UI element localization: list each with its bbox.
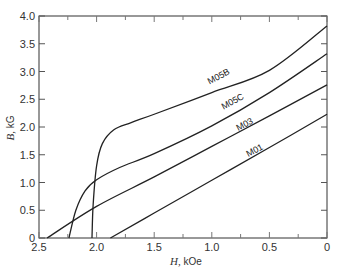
plot-frame xyxy=(39,16,327,238)
y-tick-label: 2.0 xyxy=(20,121,35,133)
y-tick-label: 0.5 xyxy=(20,204,35,216)
y-tick-label: 2.5 xyxy=(20,93,35,105)
y-tick-label: 1.0 xyxy=(20,177,35,189)
y-axis-ticks: 00.51.01.52.02.53.03.54.0 xyxy=(20,10,327,244)
plot-border xyxy=(39,16,327,238)
x-tick-label: 0 xyxy=(324,241,330,253)
curve-m05c xyxy=(69,54,327,238)
curve-m05b xyxy=(92,26,327,238)
x-tick-label: 1.0 xyxy=(204,241,219,253)
y-tick-label: 1.5 xyxy=(20,149,35,161)
y-tick-label: 3.5 xyxy=(20,38,35,50)
x-axis-ticks: 2.52.01.51.00.50 xyxy=(31,16,330,253)
curve-label-m05b: M05B xyxy=(206,66,231,86)
curve-m03 xyxy=(47,85,327,238)
curves xyxy=(47,26,327,238)
y-tick-label: 3.0 xyxy=(20,66,35,78)
y-axis-title: B, kG xyxy=(4,115,16,140)
curve-m01 xyxy=(110,114,327,238)
y-tick-label: 4.0 xyxy=(20,10,35,22)
curve-label-m05c: M05C xyxy=(220,91,246,111)
x-tick-label: 0.5 xyxy=(262,241,277,253)
curve-label-m03: M03 xyxy=(235,116,255,133)
x-axis-title: H, kOe xyxy=(169,255,202,267)
x-tick-label: 2.0 xyxy=(89,241,104,253)
x-tick-label: 1.5 xyxy=(147,241,162,253)
x-tick-label: 2.5 xyxy=(31,241,46,253)
bh-demagnetization-chart: 00.51.01.52.02.53.03.54.0 2.52.01.51.00.… xyxy=(0,0,343,272)
